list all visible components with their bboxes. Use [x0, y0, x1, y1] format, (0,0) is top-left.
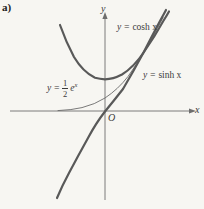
y-axis-label: y: [101, 4, 105, 14]
origin-label: O: [108, 113, 115, 123]
hyperbolic-functions-figure: a) y x O y = cosh x y = sinh x y = 1: [0, 0, 204, 209]
curve-label-cosh: y = cosh x: [117, 23, 157, 33]
curve-label-sinh-rhs: sinh x: [158, 70, 181, 80]
fraction-one-half: 1 2: [62, 79, 68, 98]
plot-canvas: [0, 0, 204, 209]
curve-label-cosh-rhs: cosh x: [132, 22, 157, 32]
y-axis: [102, 12, 107, 200]
curve-label-halfexp-lhs: y =: [47, 84, 60, 94]
exponential-term: ex: [70, 84, 77, 94]
fraction-numerator: 1: [62, 79, 68, 88]
curve-sinh: [57, 10, 166, 198]
exponential-exponent: x: [74, 81, 77, 88]
curve-label-sinh-lhs: y =: [143, 70, 156, 80]
curve-label-cosh-lhs: y =: [117, 22, 130, 32]
x-axis-label: x: [195, 105, 199, 115]
fraction-denominator: 2: [62, 90, 68, 99]
curve-label-sinh: y = sinh x: [143, 71, 181, 81]
curve-label-half-exponential: y = 1 2 ex: [47, 79, 77, 98]
